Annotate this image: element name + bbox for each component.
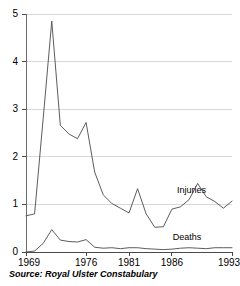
data-series-lines [26, 21, 232, 252]
y-axis-tick-marks [22, 14, 26, 252]
x-axis-tick-label: 1986 [152, 258, 192, 268]
y-axis-tick-label: 1 [4, 199, 18, 209]
gridlines [26, 14, 232, 204]
series-label-deaths: Deaths [173, 233, 202, 242]
y-axis-tick-label: 3 [4, 104, 18, 114]
series-line-injuries [26, 21, 232, 227]
series-label-injuries: Injuries [177, 186, 206, 195]
y-axis-tick-label: 4 [4, 57, 18, 67]
y-axis-tick-label: 2 [4, 152, 18, 162]
chart-figure: 012345 19691976198119861993 InjuriesDeat… [0, 0, 240, 286]
x-axis-tick-label: 1969 [9, 258, 49, 268]
line-chart-plot [0, 0, 240, 286]
source-note: Source: Royal Ulster Constabulary [9, 269, 158, 280]
x-axis-tick-marks [26, 252, 232, 256]
y-axis-tick-label: 0 [4, 247, 18, 257]
x-axis-tick-label: 1981 [109, 258, 149, 268]
x-axis-tick-label: 1993 [209, 258, 240, 268]
x-axis-tick-label: 1976 [66, 258, 106, 268]
y-axis-tick-label: 5 [4, 9, 18, 19]
